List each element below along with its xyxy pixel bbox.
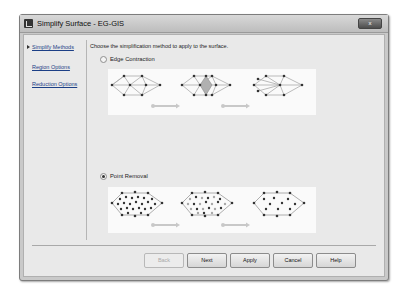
simplify-surface-dialog: Simplify Surface - EG-GIS x Simplify Met… xyxy=(19,14,389,281)
close-button[interactable]: x xyxy=(358,18,382,29)
edge-contraction-radio[interactable] xyxy=(100,56,107,63)
point-removal-diagram xyxy=(108,187,316,233)
nav-divider xyxy=(86,40,87,240)
edge-contraction-label: Edge Contraction xyxy=(110,56,155,62)
nav-item-region-options[interactable]: Region Options xyxy=(32,64,70,70)
point-removal-label: Point Removal xyxy=(110,173,148,179)
help-button[interactable]: Help xyxy=(316,253,356,268)
nav-item-reduction-options[interactable]: Reduction Options xyxy=(32,81,77,87)
next-button[interactable]: Next xyxy=(187,253,227,268)
dialog-client: Simplify Methods Region Options Reductio… xyxy=(23,34,385,277)
edge-contraction-illustration-icon xyxy=(108,69,316,115)
cancel-button[interactable]: Cancel xyxy=(273,253,313,268)
window-title: Simplify Surface - EG-GIS xyxy=(37,19,124,28)
nav-label: Simplify Methods xyxy=(32,44,74,50)
back-button[interactable]: Back xyxy=(144,253,184,268)
main-panel: Choose the simplification method to appl… xyxy=(90,35,384,246)
edge-contraction-diagram xyxy=(108,69,316,115)
app-icon xyxy=(24,19,33,28)
nav-item-simplify-methods[interactable]: Simplify Methods xyxy=(32,44,74,50)
current-step-arrow-icon xyxy=(27,45,30,49)
footer-divider xyxy=(32,245,376,246)
instruction-text: Choose the simplification method to appl… xyxy=(90,43,228,49)
wizard-nav: Simplify Methods Region Options Reductio… xyxy=(24,35,84,246)
point-removal-illustration-icon xyxy=(108,187,316,233)
point-removal-radio[interactable] xyxy=(100,173,107,180)
title-bar[interactable]: Simplify Surface - EG-GIS x xyxy=(20,15,388,33)
point-removal-option[interactable]: Point Removal xyxy=(100,173,148,180)
edge-contraction-option[interactable]: Edge Contraction xyxy=(100,56,155,63)
apply-button[interactable]: Apply xyxy=(230,253,270,268)
